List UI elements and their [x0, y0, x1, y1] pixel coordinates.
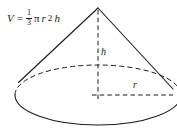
formula-pi-symbol: π: [34, 13, 40, 24]
formula-radius-symbol: r: [42, 13, 46, 24]
base-ellipse-front-arc: [15, 95, 177, 125]
fraction-numerator: 1: [26, 9, 32, 17]
formula-equals-sign: =: [17, 13, 23, 24]
base-ellipse-back-arc: [15, 65, 177, 95]
formula-radius-exponent: 2: [48, 14, 53, 23]
fraction-denominator: 3: [26, 19, 32, 27]
cone-slant-right: [98, 8, 173, 89]
volume-formula: V = 1 3 πr2h: [7, 9, 60, 28]
formula-lhs-V: V: [7, 13, 14, 24]
height-label: h: [101, 47, 106, 57]
radius-label: r: [133, 80, 137, 90]
formula-height-symbol: h: [54, 13, 60, 24]
formula-fraction-one-third: 1 3: [26, 9, 32, 28]
